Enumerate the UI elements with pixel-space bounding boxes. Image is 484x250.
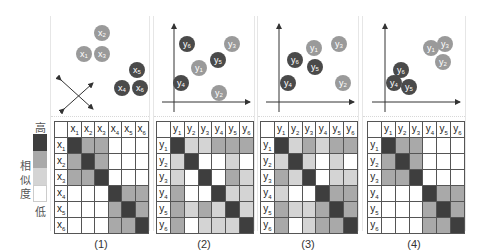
- matrix-cell: [302, 154, 316, 170]
- matrix-cell: [344, 218, 358, 234]
- matrix-cell: [226, 202, 240, 218]
- matrix-cell: [330, 154, 344, 170]
- matrix-col-header: y6: [344, 122, 358, 138]
- matrix-cell: [81, 138, 94, 154]
- panel-caption-2: (2): [184, 238, 224, 250]
- matrix-row-header: y3: [261, 170, 275, 186]
- matrix-cell: [226, 170, 240, 186]
- matrix-cell: [381, 154, 395, 170]
- matrix-row-header: y4: [261, 186, 275, 202]
- matrix-cell: [437, 170, 451, 186]
- matrix-cell: [316, 170, 330, 186]
- matrix-cell: [170, 138, 184, 154]
- matrix-cell: [184, 186, 198, 202]
- matrix-cell: [198, 186, 212, 202]
- point-y3: y3: [224, 36, 240, 52]
- matrix-header-row: x1x2x3x4x5x6: [55, 122, 149, 138]
- matrix-cell: [395, 138, 409, 154]
- matrix-row-header: x1: [55, 138, 68, 154]
- point-y2: y2: [211, 85, 227, 101]
- matrix-cell: [81, 218, 94, 234]
- panel-3: y1 y3 y6 y5 y4 y2 y1y2y3y4y5y6y1y2y3y4y5…: [257, 16, 359, 231]
- matrix-cell: [135, 218, 148, 234]
- matrix-cell: [330, 170, 344, 186]
- matrix-cell: [95, 138, 108, 154]
- matrix-cell: [240, 202, 254, 218]
- matrix-cell: [198, 202, 212, 218]
- matrix-col-header: x2: [81, 122, 94, 138]
- matrix-cell: [95, 202, 108, 218]
- point-y1: y1: [191, 60, 207, 76]
- matrix-row-header: y2: [261, 154, 275, 170]
- matrix-row: y5: [157, 202, 254, 218]
- scatter-plot-1: x2 x1 x3 x5 x4 x6: [51, 16, 149, 116]
- matrix-cell: [409, 218, 423, 234]
- matrix-row-header: y6: [368, 218, 382, 234]
- matrix-cell: [330, 186, 344, 202]
- matrix-cell: [437, 154, 451, 170]
- matrix-col-header: y6: [451, 122, 465, 138]
- point-x2: x2: [94, 25, 110, 41]
- matrix-cell: [68, 186, 81, 202]
- matrix-cell: [122, 138, 135, 154]
- matrix-corner: [55, 122, 68, 138]
- matrix-row: y2: [368, 154, 465, 170]
- matrix-row-header: y5: [157, 202, 171, 218]
- point-y2: y2: [335, 75, 351, 91]
- point-y1: y1: [306, 40, 322, 56]
- matrix-cell: [198, 218, 212, 234]
- matrix-cell: [170, 186, 184, 202]
- matrix-cell: [68, 202, 81, 218]
- matrix-cell: [122, 154, 135, 170]
- matrix-cell: [226, 154, 240, 170]
- point-x6: x6: [132, 80, 148, 96]
- matrix-col-header: x1: [68, 122, 81, 138]
- matrix-col-header: y2: [395, 122, 409, 138]
- matrix-cell: [381, 218, 395, 234]
- matrix-cell: [95, 170, 108, 186]
- matrix-cell: [198, 154, 212, 170]
- point-y3: y3: [331, 36, 347, 52]
- scatter-plot-4: y1 y3 y2 y6 y4 y5: [363, 16, 465, 116]
- matrix-cell: [240, 218, 254, 234]
- matrix-cell: [135, 154, 148, 170]
- panel-divider: [51, 116, 149, 117]
- matrix-cell: [135, 138, 148, 154]
- matrix-cell: [423, 202, 437, 218]
- similarity-matrix-4: y1y2y3y4y5y6y1y2y3y4y5y6: [367, 121, 465, 234]
- matrix-cell: [395, 170, 409, 186]
- point-y5: y5: [307, 59, 323, 75]
- matrix-corner: [157, 122, 171, 138]
- matrix-cell: [423, 138, 437, 154]
- matrix-cell: [409, 170, 423, 186]
- matrix-col-header: y2: [184, 122, 198, 138]
- matrix-cell: [395, 218, 409, 234]
- matrix-cell: [226, 186, 240, 202]
- matrix-cell: [409, 202, 423, 218]
- matrix-row: x5: [55, 202, 149, 218]
- matrix-cell: [68, 138, 81, 154]
- matrix-corner: [368, 122, 382, 138]
- matrix-row: x6: [55, 218, 149, 234]
- matrix-row: y5: [368, 202, 465, 218]
- matrix-row: y2: [261, 154, 358, 170]
- matrix-cell: [288, 218, 302, 234]
- matrix-cell: [122, 202, 135, 218]
- matrix-row-header: y3: [368, 170, 382, 186]
- matrix-col-header: y4: [212, 122, 226, 138]
- point-x1: x1: [76, 46, 92, 62]
- point-y2: y2: [435, 54, 451, 70]
- point-x4: x4: [114, 80, 130, 96]
- matrix-cell: [170, 218, 184, 234]
- matrix-cell: [437, 218, 451, 234]
- matrix-row: x2: [55, 154, 149, 170]
- matrix-cell: [108, 218, 121, 234]
- matrix-cell: [240, 154, 254, 170]
- matrix-cell: [344, 170, 358, 186]
- matrix-cell: [81, 170, 94, 186]
- matrix-cell: [108, 154, 121, 170]
- matrix-cell: [170, 154, 184, 170]
- matrix-row-header: y4: [368, 186, 382, 202]
- matrix-cell: [212, 154, 226, 170]
- matrix-cell: [274, 170, 288, 186]
